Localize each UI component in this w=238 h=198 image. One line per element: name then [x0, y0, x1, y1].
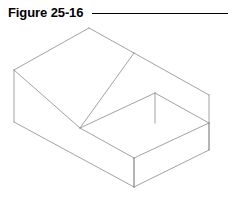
title-divider-rule: [92, 13, 228, 14]
technical-drawing-canvas: [0, 22, 238, 198]
figure-page: Figure 25-16: [0, 0, 238, 198]
isometric-block-illustration: [0, 22, 238, 198]
page-title: Figure 25-16: [8, 6, 83, 20]
